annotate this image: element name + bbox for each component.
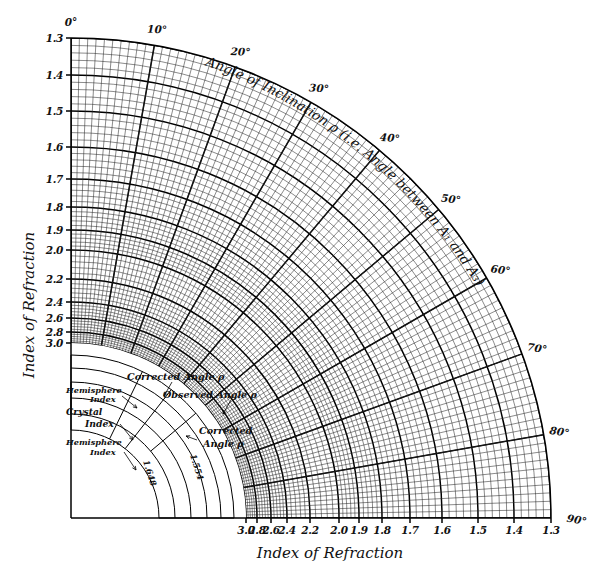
angle-tick-label: 80° — [549, 424, 571, 439]
grid-spoke-minor — [242, 418, 540, 481]
tick-label-left: 2.0 — [45, 244, 64, 256]
inset-label-corrected-angle-top: Corrected Angle ρ — [127, 371, 225, 382]
tick-label-bottom: 1.5 — [469, 524, 486, 536]
tick-label-left: 1.3 — [46, 32, 63, 44]
grid-spoke-interleave — [98, 44, 146, 345]
grid-spoke-minor — [245, 468, 548, 500]
inset-label-corrected-angle-right-1: Corrected — [199, 425, 253, 436]
grid-spoke-interleave — [104, 47, 162, 346]
tick-label-left: 1.4 — [46, 69, 63, 81]
grid-spoke-interleave — [244, 443, 545, 491]
angle-tick-label: 0° — [65, 16, 78, 28]
grid-spoke-interleave — [156, 98, 304, 365]
angle-tick-label: 70° — [526, 340, 547, 355]
bottom-axis-title: Index of Refraction — [256, 544, 403, 562]
tick-label-bottom: 1.3 — [542, 524, 559, 536]
tick-label-left: 1.5 — [46, 105, 63, 117]
grid-spoke-minor — [244, 451, 546, 493]
angle-tick-label: 50° — [441, 192, 462, 206]
inset-label-hemisphere-index-lower-2: Index — [89, 447, 116, 457]
inset-label-crystal-index-1: Crystal — [66, 406, 103, 417]
grid-spoke-minor — [226, 293, 495, 436]
nomogram-figure: 1.31.41.51.61.71.81.92.02.22.42.62.83.03… — [0, 0, 606, 578]
grid-spoke-minor — [95, 43, 137, 345]
tick-label-bottom: 2.0 — [329, 524, 348, 536]
grid-spoke-minor — [89, 41, 121, 344]
tick-label-bottom: 2.2 — [300, 524, 318, 536]
angle-tick-label: 60° — [490, 262, 511, 276]
tick-label-bottom: 1.6 — [433, 524, 451, 536]
tick-label-left: 1.8 — [46, 201, 64, 213]
grid-spoke-interleave — [240, 394, 535, 473]
grid-spoke-interleave — [166, 115, 332, 371]
angle-tick-label: 10° — [147, 23, 167, 35]
tick-label-left: 3.0 — [46, 337, 64, 349]
grid-spoke-mid — [243, 435, 543, 488]
left-axis-title: Index of Refraction — [20, 232, 38, 379]
grid-spoke-interleave — [224, 285, 491, 433]
tick-label-bottom: 1.4 — [505, 524, 522, 536]
tick-label-bottom: 1.9 — [350, 524, 368, 536]
tick-label-bottom: 2.4 — [277, 524, 295, 536]
grid-spoke-mid — [101, 45, 154, 345]
grid-spoke-minor — [153, 94, 296, 363]
inset-label-crystal-index-2: Index — [84, 418, 114, 429]
grid-spoke-minor — [107, 48, 170, 346]
tick-label-left: 1.6 — [46, 141, 64, 153]
angle-tick-label: 90° — [566, 512, 588, 528]
grid-spoke-interleave — [116, 54, 195, 349]
nomogram-canvas: 1.31.41.51.61.71.81.92.02.22.42.62.83.03… — [0, 0, 606, 578]
tick-label-left: 1.7 — [46, 173, 64, 185]
angle-tick-label: 30° — [309, 81, 330, 94]
tick-label-left: 2.2 — [45, 273, 63, 285]
tick-label-left: 2.6 — [45, 312, 64, 324]
tick-label-bottom: 1.8 — [373, 524, 391, 536]
grid-spoke-mid — [159, 102, 312, 366]
tick-label-left: 2.4 — [45, 296, 63, 308]
angle-tick-label: 20° — [229, 45, 250, 58]
tick-label-left: 1.9 — [46, 224, 64, 236]
inset-label-observed-angle: Observed Angle ρ — [163, 389, 258, 400]
inset-label-hemisphere-index-upper-2: Index — [89, 394, 116, 404]
angle-tick-label: 40° — [379, 131, 400, 145]
inset-label-corrected-angle-right-2: Angle ρ — [202, 438, 244, 449]
grid-spoke-interleave — [245, 476, 549, 503]
grid-spoke-mid — [223, 278, 487, 431]
inset-label-hemisphere-index-lower-1: Hemisphere — [65, 437, 122, 447]
grid-spoke-interleave — [243, 426, 542, 484]
grid-spoke-interleave — [86, 40, 113, 344]
tick-label-bottom: 1.7 — [401, 524, 419, 536]
